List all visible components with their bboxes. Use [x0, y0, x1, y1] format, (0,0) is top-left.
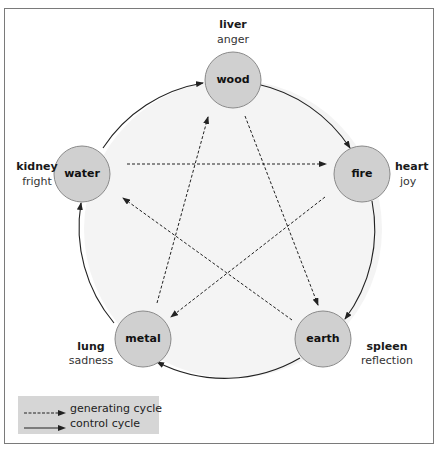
organ-spleen: spleen — [357, 340, 417, 354]
emotion-fright: fright — [14, 175, 60, 189]
node-label-water: water — [54, 167, 110, 181]
node-label-fire: fire — [334, 167, 390, 181]
node-label-earth: earth — [295, 332, 351, 346]
emotion-anger: anger — [203, 33, 263, 47]
emotion-joy: joy — [400, 175, 430, 189]
five-elements-diagram — [0, 0, 438, 456]
legend: generating cycle control cycle — [18, 396, 159, 434]
emotion-reflection: reflection — [352, 354, 422, 368]
node-label-wood: wood — [205, 73, 261, 87]
legend-item-control: control cycle — [24, 416, 140, 430]
organ-liver: liver — [203, 18, 263, 32]
solid-arrow-icon — [24, 418, 66, 428]
node-label-metal: metal — [115, 332, 171, 346]
dashed-arrow-icon — [24, 403, 66, 413]
emotion-sadness: sadness — [62, 354, 120, 368]
legend-item-generating: generating cycle — [24, 401, 162, 415]
organ-lung: lung — [66, 340, 116, 354]
organ-heart: heart — [395, 160, 435, 174]
organ-kidney: kidney — [14, 160, 60, 174]
